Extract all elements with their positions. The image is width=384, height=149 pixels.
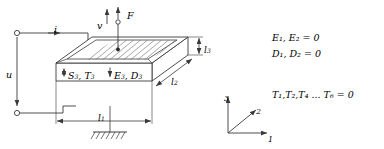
dimension-l3 [188,37,203,55]
voltage-label: u [6,63,12,82]
support-hatching [91,132,125,139]
terminal-top[interactable] [14,30,19,35]
terminal-bottom[interactable] [14,110,19,115]
efield-dflux-label: E3, D3 [114,64,142,83]
dimension-label-l1: l1 [98,106,105,125]
axis-label-3: 3 [224,86,229,105]
velocity-label: v [97,14,102,33]
fixed-support [91,106,127,139]
figure-canvas [0,0,384,149]
equation-d-flux: D₁, D₂ = 0 [272,42,321,61]
force-label: F [127,4,134,23]
axis-label-1: 1 [268,127,273,146]
force-application-dot [116,48,120,52]
axis-label-2: 2 [256,99,261,118]
piezoelectric-transducer-figure: i u v F S3, T3 E3, D3 l1 l2 l3 3 2 1 E₁, [0,0,384,149]
equation-stress: T₁,T₂,T₄ ... T₆ = 0 [272,83,354,102]
dimension-label-l3: l3 [204,38,211,57]
coordinate-axes [228,97,267,133]
axis-2-arrow [228,110,256,133]
force-node-circle [116,20,120,24]
bottom-lead-wire [20,106,76,113]
current-label: i [54,18,57,37]
dimension-label-l2: l2 [171,70,178,89]
strain-stress-label: S3, T3 [68,64,95,83]
